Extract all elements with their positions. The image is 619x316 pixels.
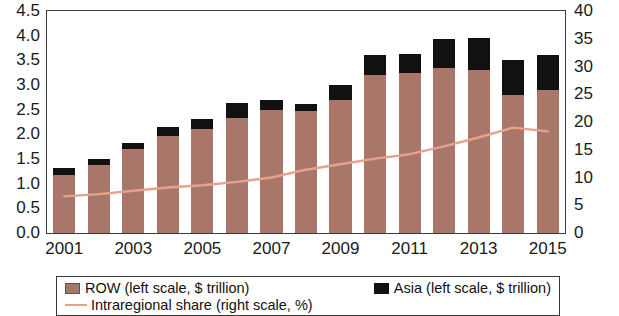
y-axis-left-tick: 3.0 (0, 76, 40, 93)
y-axis-left-tick: 2.5 (0, 101, 40, 118)
intraregional-share-line (47, 11, 565, 233)
legend-item-asia: Asia (left scale, $ trillion) (374, 280, 551, 297)
x-axis-tick: 2015 (518, 240, 578, 257)
y-axis-right-tick: 5 (574, 196, 614, 213)
y-axis-right-tick: 30 (574, 58, 614, 75)
chart-legend: ROW (left scale, $ trillion) Asia (left … (56, 276, 560, 316)
y-axis-right-tick: 0 (574, 224, 614, 241)
y-axis-right-tick: 15 (574, 141, 614, 158)
y-axis-left-tick: 3.5 (0, 51, 40, 68)
x-axis-tick: 2001 (34, 240, 94, 257)
y-axis-right-tick: 20 (574, 113, 614, 130)
legend-label-asia: Asia (left scale, $ trillion) (394, 280, 551, 297)
legend-swatch-row-icon (65, 283, 80, 294)
legend-item-row: ROW (left scale, $ trillion) (65, 280, 249, 297)
y-axis-left-tick: 2.0 (0, 125, 40, 142)
y-axis-left-tick: 0.5 (0, 199, 40, 216)
y-axis-left-tick: 4.5 (0, 2, 40, 19)
legend-swatch-line-icon (65, 304, 87, 306)
chart-container: ROW (left scale, $ trillion) Asia (left … (0, 0, 619, 316)
x-axis-tick: 2003 (103, 240, 163, 257)
y-axis-right-tick: 40 (574, 2, 614, 19)
x-axis-tick: 2005 (172, 240, 232, 257)
y-axis-right-tick: 10 (574, 169, 614, 186)
y-axis-left-tick: 0.0 (0, 224, 40, 241)
x-axis-tick: 2007 (241, 240, 301, 257)
legend-item-line: Intraregional share (right scale, %) (65, 297, 313, 314)
x-axis-tick: 2009 (311, 240, 371, 257)
y-axis-left-tick: 1.5 (0, 150, 40, 167)
legend-label-line: Intraregional share (right scale, %) (91, 297, 313, 314)
y-axis-left-tick: 4.0 (0, 27, 40, 44)
y-axis-left-tick: 1.0 (0, 175, 40, 192)
legend-swatch-asia-icon (374, 283, 389, 294)
legend-label-row: ROW (left scale, $ trillion) (85, 280, 249, 297)
x-axis-tick: 2011 (380, 240, 440, 257)
y-axis-right-tick: 35 (574, 30, 614, 47)
plot-area (46, 10, 566, 234)
x-axis-tick: 2013 (449, 240, 509, 257)
legend-row-2: Intraregional share (right scale, %) (65, 297, 551, 314)
legend-row-1: ROW (left scale, $ trillion) Asia (left … (65, 280, 551, 297)
y-axis-right-tick: 25 (574, 85, 614, 102)
